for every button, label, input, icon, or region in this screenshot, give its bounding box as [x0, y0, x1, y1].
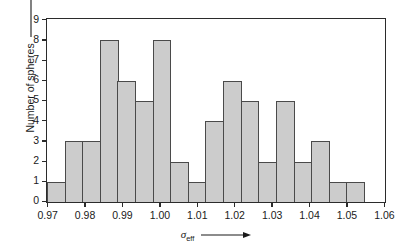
histogram-bar [223, 81, 242, 202]
histogram-bar [135, 101, 154, 202]
x-tick-label: 1.06 [374, 209, 394, 222]
x-tick-label: 1.02 [224, 209, 244, 222]
histogram-bars [47, 19, 385, 202]
x-tick-mark [122, 203, 123, 207]
y-tick-label: 2 [33, 154, 39, 167]
y-axis-title: Number of spheres [24, 0, 36, 147]
x-tick-label: 1.03 [262, 209, 282, 222]
x-tick-mark [234, 203, 235, 207]
histogram-bar [276, 101, 295, 202]
chart-page: 0123456789 Number of spheres 0.970.980.9… [0, 0, 403, 251]
y-tick-label: 1 [33, 174, 39, 187]
x-tick-label: 1.01 [187, 209, 207, 222]
histogram-bar [47, 182, 66, 202]
x-tick-mark [159, 203, 160, 207]
histogram-bar [100, 40, 119, 202]
x-tick-mark [309, 203, 310, 207]
x-tick-mark [346, 203, 347, 207]
plot-area [46, 18, 386, 203]
x-tick-label: 0.97 [37, 209, 57, 222]
histogram-bar [329, 182, 348, 202]
x-tick-mark [47, 203, 48, 207]
x-tick-label: 1.05 [337, 209, 357, 222]
x-axis-title: σeff [46, 228, 386, 243]
histogram-bar [294, 162, 313, 202]
y-axis-arrow-icon [27, 0, 35, 37]
x-axis-arrow-icon [201, 231, 251, 239]
histogram-bar [65, 141, 84, 202]
x-tick-label: 0.99 [112, 209, 132, 222]
histogram-bar [241, 101, 260, 202]
x-tick-mark [197, 203, 198, 207]
histogram-bar [346, 182, 365, 202]
histogram-bar [82, 141, 101, 202]
y-axis-title-text: Number of spheres [24, 43, 36, 132]
x-tick-label: 1.00 [150, 209, 170, 222]
histogram-bar [188, 182, 207, 202]
x-tick-mark [84, 203, 85, 207]
histogram-bar [117, 81, 136, 202]
histogram-bar [258, 162, 277, 202]
x-tick-label: 0.98 [75, 209, 95, 222]
x-tick-mark [384, 203, 385, 207]
histogram-bar [311, 141, 330, 202]
x-axis-title-subscript: eff [186, 234, 194, 243]
histogram-bar [205, 121, 224, 202]
histogram-bar [170, 162, 189, 202]
x-tick-label: 1.04 [299, 209, 319, 222]
x-tick-mark [271, 203, 272, 207]
y-tick-label: 0 [33, 194, 39, 207]
histogram-bar [153, 40, 172, 202]
x-axis: 0.970.980.991.001.011.021.031.041.051.06 [46, 203, 386, 229]
y-axis: 0123456789 [0, 0, 46, 203]
